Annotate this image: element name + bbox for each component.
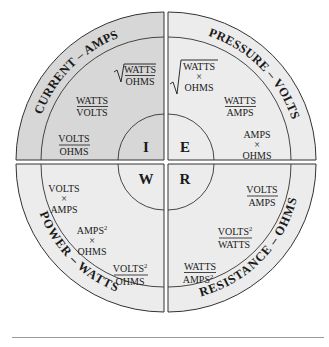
svg-text:AMPS: AMPS <box>50 204 77 215</box>
symbol-pressure: E <box>180 139 190 155</box>
ohms-law-wheel: CURRENT – AMPS PRESSURE – VOLTS POWER – … <box>0 0 329 347</box>
symbol-resistance: R <box>180 171 191 187</box>
svg-text:WATTS: WATTS <box>224 95 256 106</box>
svg-text:×: × <box>254 139 260 150</box>
svg-text:OHMS: OHMS <box>78 246 107 257</box>
svg-text:WATTS: WATTS <box>124 64 156 75</box>
divider-rule <box>12 337 324 338</box>
svg-text:WATTS: WATTS <box>76 95 108 106</box>
svg-text:×: × <box>61 193 67 204</box>
symbol-power: W <box>139 171 154 187</box>
svg-text:AMPS2: AMPS2 <box>183 273 214 285</box>
svg-text:VOLTS: VOLTS <box>76 107 107 118</box>
formula-current-watts-over-volts: WATTS VOLTS <box>76 95 108 118</box>
svg-text:OHMS: OHMS <box>185 82 214 93</box>
svg-text:×: × <box>89 235 95 246</box>
svg-text:WATTS: WATTS <box>184 261 216 272</box>
svg-text:×: × <box>196 71 202 82</box>
formula-pressure-watts-over-amps: WATTS AMPS <box>224 95 256 118</box>
formula-resistance-volts-over-amps: VOLTS AMPS <box>246 184 278 208</box>
svg-text:OHMS: OHMS <box>243 150 272 161</box>
svg-text:VOLTS: VOLTS <box>58 133 89 144</box>
svg-text:VOLTS2: VOLTS2 <box>218 225 253 237</box>
svg-text:AMPS: AMPS <box>248 197 275 208</box>
svg-text:WATTS: WATTS <box>218 239 250 250</box>
svg-text:VOLTS: VOLTS <box>246 184 277 195</box>
svg-text:OHMS: OHMS <box>60 146 89 157</box>
svg-text:VOLTS2: VOLTS2 <box>113 262 148 274</box>
svg-text:OHMS: OHMS <box>116 276 145 287</box>
symbol-current: I <box>143 139 149 155</box>
formula-current-volts-over-ohms: VOLTS OHMS <box>58 133 90 157</box>
svg-text:OHMS: OHMS <box>126 76 155 87</box>
svg-text:AMPS: AMPS <box>226 107 253 118</box>
